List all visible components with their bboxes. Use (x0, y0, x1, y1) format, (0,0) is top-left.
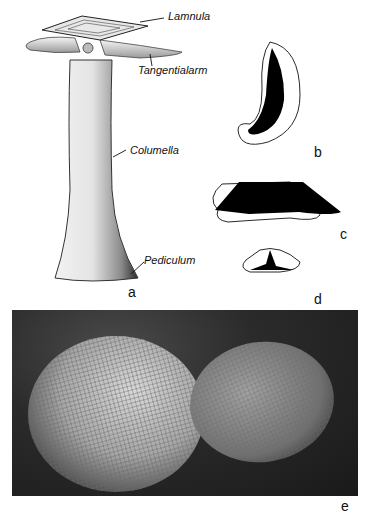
panel-letter-c: c (340, 226, 347, 242)
panel-e-photo (12, 310, 358, 496)
panel-letter-b: b (314, 144, 322, 160)
label-lamnula: Lamnula (168, 10, 210, 22)
label-pediculum: Pediculum (144, 254, 195, 266)
panel-c-section (213, 180, 341, 222)
panel-letter-a: a (128, 284, 136, 300)
panel-b-section (238, 42, 300, 144)
label-columella: Columella (130, 144, 179, 156)
columella-shape (55, 60, 138, 281)
label-tangentialarm: Tangentialarm (138, 64, 207, 76)
panel-d-section (243, 249, 300, 273)
panel-letter-d: d (314, 291, 322, 307)
panel-letter-e: e (341, 498, 349, 514)
